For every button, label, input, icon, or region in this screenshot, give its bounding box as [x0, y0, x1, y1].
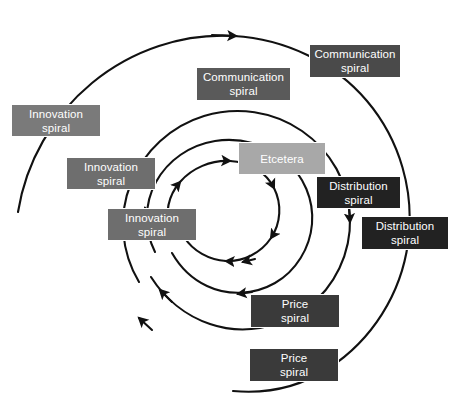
- node-etcetera[interactable]: Etcetera: [238, 142, 326, 175]
- node-label-line2: spiral: [341, 61, 369, 75]
- spiral-arrow-ring2-bottomleft: [160, 290, 172, 302]
- node-label-line1: Communication: [314, 47, 395, 61]
- node-innovation-spiral-outer[interactable]: Innovation spiral: [11, 104, 101, 137]
- node-label-line1: Distribution: [329, 179, 388, 193]
- node-communication-spiral-outer[interactable]: Communication spiral: [309, 44, 401, 78]
- node-label-line1: Innovation: [125, 211, 179, 225]
- node-label-line1: Price: [281, 351, 308, 365]
- node-label-line1: Innovation: [84, 160, 138, 174]
- node-label-line2: spiral: [280, 365, 308, 379]
- node-label-line2: spiral: [391, 233, 419, 247]
- node-innovation-spiral-middle[interactable]: Innovation spiral: [66, 157, 156, 190]
- spiral-diagram: Innovation spiral Etcetera Communication…: [0, 0, 458, 394]
- node-label-line1: Innovation: [29, 107, 83, 121]
- node-label-line2: spiral: [42, 121, 70, 135]
- node-distribution-spiral-inner[interactable]: Distribution spiral: [316, 176, 401, 209]
- node-innovation-spiral-inner[interactable]: Innovation spiral: [107, 208, 197, 241]
- node-price-spiral-inner[interactable]: Price spiral: [250, 294, 340, 328]
- node-distribution-spiral-outer[interactable]: Distribution spiral: [361, 216, 449, 250]
- node-label-line2: spiral: [281, 311, 309, 325]
- node-price-spiral-outer[interactable]: Price spiral: [249, 348, 339, 382]
- spiral-arrow-ring2-right: [349, 208, 350, 222]
- node-label-line1: Communication: [203, 70, 284, 84]
- node-label-line2: spiral: [138, 225, 166, 239]
- node-label-line1: Etcetera: [260, 152, 304, 166]
- node-label-line2: spiral: [229, 84, 257, 98]
- spiral-arrow-inner-bottom: [243, 259, 255, 262]
- node-communication-spiral-inner[interactable]: Communication spiral: [196, 67, 291, 101]
- spiral-arrow-outer-bottomleft: [139, 318, 152, 330]
- node-label-line2: spiral: [344, 193, 372, 207]
- node-label-line2: spiral: [97, 174, 125, 188]
- spiral-arrow-outer-top: [212, 35, 236, 36]
- node-label-line1: Price: [282, 297, 309, 311]
- node-label-line1: Distribution: [376, 219, 435, 233]
